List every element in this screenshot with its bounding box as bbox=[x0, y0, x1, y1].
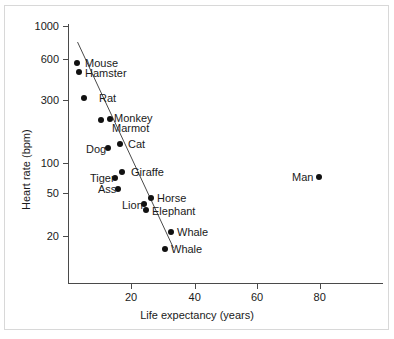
x-axis-label: Life expectancy (years) bbox=[0, 309, 394, 321]
data-point-label: Whale bbox=[171, 244, 202, 255]
x-tick-label: 80 bbox=[300, 292, 340, 303]
data-point-label: Ass bbox=[98, 184, 116, 195]
x-tick-mark bbox=[320, 284, 321, 289]
data-point-label: Giraffe bbox=[131, 167, 164, 178]
chart-figure: 10006003001005020 20406080 MouseHamsterR… bbox=[0, 0, 394, 339]
y-tick-mark bbox=[63, 193, 68, 194]
x-tick-mark bbox=[131, 284, 132, 289]
data-point-marker bbox=[117, 141, 123, 147]
y-tick-label: 600 bbox=[25, 54, 59, 65]
data-point-marker bbox=[143, 207, 149, 213]
data-point-marker bbox=[119, 169, 125, 175]
x-tick-label: 60 bbox=[237, 292, 277, 303]
data-point-marker bbox=[162, 246, 168, 252]
data-point-marker bbox=[316, 174, 322, 180]
x-tick-label: 40 bbox=[175, 292, 215, 303]
data-point-label: Hamster bbox=[85, 68, 127, 79]
y-tick-mark bbox=[63, 163, 68, 164]
x-tick-mark bbox=[257, 284, 258, 289]
data-point-label: Man bbox=[292, 172, 313, 183]
data-point-label: Dog bbox=[86, 144, 106, 155]
y-tick-mark bbox=[63, 26, 68, 27]
data-point-marker bbox=[81, 95, 87, 101]
plot-area: 10006003001005020 20406080 MouseHamsterR… bbox=[0, 0, 394, 339]
data-point-marker bbox=[98, 117, 104, 123]
trend-line bbox=[0, 0, 394, 339]
y-tick-label: 20 bbox=[25, 231, 59, 242]
y-tick-mark bbox=[63, 100, 68, 101]
x-tick-mark bbox=[195, 284, 196, 289]
data-point-marker bbox=[148, 195, 154, 201]
data-point-label: Whale bbox=[177, 227, 208, 238]
data-point-label: Monkey bbox=[114, 113, 153, 124]
data-point-marker bbox=[74, 60, 80, 66]
data-point-label: Lion bbox=[122, 200, 143, 211]
data-point-marker bbox=[76, 69, 82, 75]
y-tick-label: 1000 bbox=[25, 21, 59, 32]
y-axis-line bbox=[68, 24, 69, 283]
data-point-label: Cat bbox=[128, 139, 145, 150]
data-point-marker bbox=[105, 145, 111, 151]
data-point-label: Marmot bbox=[112, 123, 149, 134]
y-tick-mark bbox=[63, 59, 68, 60]
data-point-marker bbox=[168, 229, 174, 235]
data-point-label: Rat bbox=[99, 93, 116, 104]
y-axis-label: Heart rate (bpm) bbox=[20, 129, 32, 210]
data-point-label: Horse bbox=[157, 193, 186, 204]
x-axis-line bbox=[68, 283, 383, 284]
y-tick-mark bbox=[63, 236, 68, 237]
data-point-label: Elephant bbox=[152, 206, 195, 217]
data-point-marker bbox=[107, 116, 113, 122]
x-tick-label: 20 bbox=[111, 292, 151, 303]
y-tick-label: 300 bbox=[25, 95, 59, 106]
